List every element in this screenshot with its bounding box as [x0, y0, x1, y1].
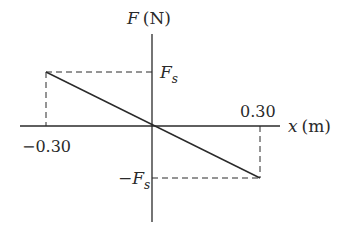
diagram-svg: F(N) x(m) −0.30 0.30 Fs −Fs: [0, 0, 350, 225]
force-line: [46, 72, 260, 178]
x-tick-left: −0.30: [22, 137, 71, 156]
x-axis-label: x(m): [288, 116, 331, 136]
y-axis-label: F(N): [126, 8, 171, 28]
force-vs-displacement-diagram: F(N) x(m) −0.30 0.30 Fs −Fs: [0, 0, 350, 225]
x-tick-right: 0.30: [240, 102, 276, 121]
y-tick-bottom-neg-fs: −Fs: [118, 168, 150, 192]
y-tick-top-fs: Fs: [159, 62, 178, 86]
